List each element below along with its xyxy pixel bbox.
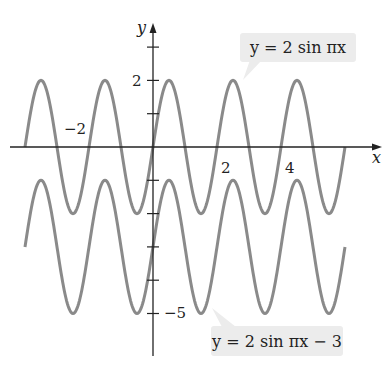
curve-2sinpix-minus-3 bbox=[25, 180, 345, 313]
callout-curve2-text: y = 2 sin πx − 3 bbox=[211, 332, 342, 351]
y-axis bbox=[147, 23, 159, 356]
y-axis-label: y bbox=[136, 18, 147, 37]
tick-label-4-x: 4 bbox=[285, 159, 295, 177]
callout-curve1: y = 2 sin πx bbox=[240, 33, 356, 80]
x-axis bbox=[10, 144, 382, 151]
callout-curve2: y = 2 sin πx − 3 bbox=[211, 308, 343, 356]
tick-label-2-x: 2 bbox=[221, 159, 231, 177]
tick-label-2-y: 2 bbox=[132, 72, 142, 90]
tick-label-neg5: −5 bbox=[164, 304, 186, 322]
tick-label-neg2: −2 bbox=[64, 120, 86, 138]
chart-canvas: y x −2 2 4 2 −5 y = 2 sin πx y = 2 sin π… bbox=[0, 0, 385, 379]
y-axis-arrow-icon bbox=[150, 23, 157, 33]
x-axis-label: x bbox=[372, 148, 381, 167]
callout-curve1-text: y = 2 sin πx bbox=[249, 38, 346, 57]
